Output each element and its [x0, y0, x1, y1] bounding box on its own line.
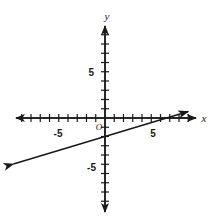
x-tick-label-pos5: 5 [150, 128, 156, 139]
origin-label: O [96, 122, 103, 132]
y-axis-label: y [104, 10, 110, 22]
graph-canvas: -5 5 5 -5 O x y [0, 0, 212, 224]
y-tick-label-pos5: 5 [88, 67, 94, 78]
coordinate-plane-figure: -5 5 5 -5 O x y [0, 0, 212, 224]
plotted-line [13, 112, 188, 164]
data-line-group [13, 112, 188, 164]
x-tick-label-neg5: -5 [54, 128, 63, 139]
x-axis-label: x [201, 112, 207, 124]
y-tick-label-neg5: -5 [87, 162, 96, 173]
